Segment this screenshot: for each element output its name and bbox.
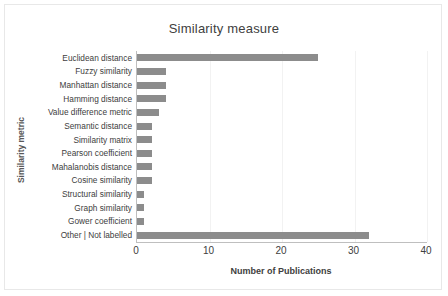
bar[interactable] xyxy=(137,54,318,61)
bar[interactable] xyxy=(137,191,144,198)
bar[interactable] xyxy=(137,177,152,184)
x-tick-label-0: 0 xyxy=(133,245,139,256)
bar[interactable] xyxy=(137,95,166,102)
bar-row[interactable] xyxy=(137,133,427,147)
y-tick-label: Manhattan distance xyxy=(31,78,132,92)
y-axis-tick-labels: Euclidean distanceFuzzy similarityManhat… xyxy=(31,51,132,242)
bar[interactable] xyxy=(137,136,152,143)
bar-row[interactable] xyxy=(137,119,427,133)
y-tick-label-text: Value difference metric xyxy=(48,108,132,116)
bar[interactable] xyxy=(137,232,369,239)
bar-row[interactable] xyxy=(137,51,427,65)
bar-row[interactable] xyxy=(137,160,427,174)
y-tick-label-text: Manhattan distance xyxy=(60,81,132,89)
y-tick-label-text: Gower coefficient xyxy=(68,217,132,225)
y-tick-label-text: Fuzzy similarity xyxy=(75,67,132,75)
plot-area xyxy=(136,51,427,242)
bar-row[interactable] xyxy=(137,92,427,106)
bar-row[interactable] xyxy=(137,201,427,215)
bar[interactable] xyxy=(137,109,159,116)
y-tick-label-text: Graph similarity xyxy=(74,204,132,212)
bar[interactable] xyxy=(137,68,166,75)
y-tick-label: Semantic distance xyxy=(31,119,132,133)
y-tick-label: Similarity matrix xyxy=(31,133,132,147)
bar[interactable] xyxy=(137,82,166,89)
y-tick-label-text: Cosine similarity xyxy=(72,176,132,184)
y-tick-label-text: Structural similarity xyxy=(62,190,132,198)
y-tick-label: Fuzzy similarity xyxy=(31,65,132,79)
y-tick-label: Other | Not labelled xyxy=(31,228,132,242)
bar-row[interactable] xyxy=(137,146,427,160)
y-tick-label-text: Mahalanobis distance xyxy=(52,163,132,171)
bar-row[interactable] xyxy=(137,106,427,120)
bar-row[interactable] xyxy=(137,187,427,201)
x-tick-label-40: 40 xyxy=(420,245,431,256)
y-axis-title: Similarity metric xyxy=(16,100,26,200)
y-tick-label: Euclidean distance xyxy=(31,51,132,65)
x-axis-tick-labels: 010203040 xyxy=(136,245,426,261)
bar-series xyxy=(137,51,427,242)
chart-frame: Similarity measure Similarity metric Euc… xyxy=(4,4,442,290)
y-tick-label: Hamming distance xyxy=(31,92,132,106)
bar-row[interactable] xyxy=(137,65,427,79)
x-tick-label-30: 30 xyxy=(348,245,359,256)
y-tick-label-text: Euclidean distance xyxy=(62,54,132,62)
y-tick-label-text: Hamming distance xyxy=(63,95,132,103)
y-tick-label-text: Other | Not labelled xyxy=(61,231,132,239)
bar-row[interactable] xyxy=(137,228,427,242)
bar[interactable] xyxy=(137,163,152,170)
y-tick-label-text: Similarity matrix xyxy=(73,136,132,144)
y-tick-label: Mahalanobis distance xyxy=(31,160,132,174)
bar[interactable] xyxy=(137,218,144,225)
y-tick-label-text: Semantic distance xyxy=(64,122,132,130)
gridline-40 xyxy=(427,51,428,242)
y-tick-label: Structural similarity xyxy=(31,187,132,201)
x-axis-line xyxy=(136,242,427,243)
y-tick-label: Cosine similarity xyxy=(31,174,132,188)
bar[interactable] xyxy=(137,204,144,211)
y-tick-label: Pearson coefficient xyxy=(31,146,132,160)
x-tick-label-10: 10 xyxy=(203,245,214,256)
x-axis-title: Number of Publications xyxy=(135,266,427,276)
y-tick-label: Gower coefficient xyxy=(31,215,132,229)
bar[interactable] xyxy=(137,123,152,130)
y-tick-label: Value difference metric xyxy=(31,106,132,120)
bar[interactable] xyxy=(137,150,152,157)
chart-title: Similarity measure xyxy=(5,21,443,36)
bar-row[interactable] xyxy=(137,78,427,92)
x-tick-label-20: 20 xyxy=(275,245,286,256)
bar-row[interactable] xyxy=(137,215,427,229)
bar-row[interactable] xyxy=(137,174,427,188)
y-tick-label: Graph similarity xyxy=(31,201,132,215)
y-tick-label-text: Pearson coefficient xyxy=(62,149,132,157)
